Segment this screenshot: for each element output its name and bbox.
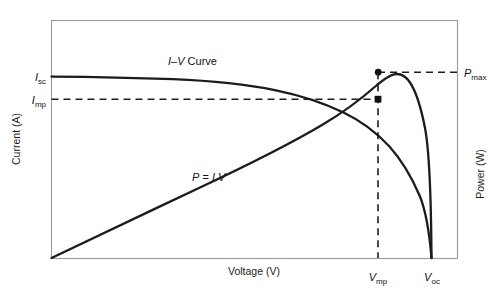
power-equation-annotation: P = I V: [192, 171, 227, 183]
iv-power-characteristic-figure: Isc Imp Pmax Vmp Voc I–V Curve P = I V V…: [0, 0, 504, 298]
x-axis-title: Voltage (V): [228, 265, 280, 277]
y-left-axis-title: Current (A): [10, 113, 22, 165]
maximum-power-point-marker: [375, 69, 382, 76]
iv-curve-annotation: I–V Curve: [168, 55, 217, 67]
chart-canvas: Isc Imp Pmax Vmp Voc I–V Curve P = I V V…: [0, 0, 504, 298]
y-right-axis-title: Power (W): [474, 149, 486, 199]
current-at-max-power-marker: [375, 96, 382, 103]
